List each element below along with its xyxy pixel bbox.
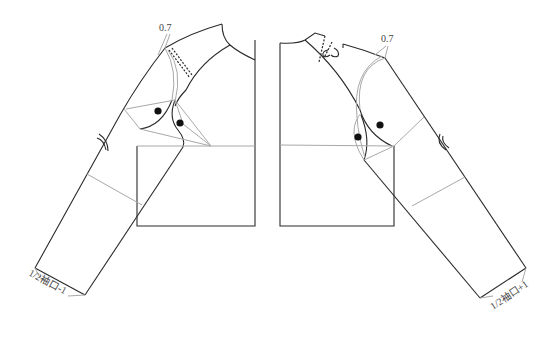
- right-sleeve-outer: [385, 58, 526, 268]
- right-0.7-leader-1: [375, 46, 386, 55]
- right-neck-curl-mark-1: [323, 50, 330, 57]
- right-elbow-line: [412, 177, 465, 206]
- left-pattern-piece: 0.7 1/2袖口-1: [27, 22, 255, 296]
- right-body-outline: [280, 43, 394, 226]
- left-biceps-guide: [124, 109, 211, 146]
- right-pattern-piece: 0.7 1/2袖口+1: [280, 33, 530, 312]
- right-neckline: [280, 33, 325, 43]
- left-notch-dot-2: [176, 119, 183, 126]
- left-sleeve-top-edge: [165, 24, 222, 48]
- left-cuff-leader-2: [68, 295, 85, 296]
- left-cuff-label: 1/2袖口-1: [27, 266, 69, 296]
- right-sleeve-top-edge: [343, 44, 385, 58]
- right-0.7-leader-2: [385, 46, 388, 58]
- left-sleeve-cap-guide: [126, 100, 175, 109]
- right-top-label: 0.7: [381, 33, 394, 44]
- left-top-label: 0.7: [159, 22, 172, 33]
- left-underarm-curve-sleeve: [140, 100, 172, 129]
- right-notch-dot-2: [376, 121, 383, 128]
- right-neck-curl-mark-2: [331, 48, 339, 57]
- left-sleeve-outer: [35, 48, 165, 268]
- right-cuff-label: 1/2袖口+1: [487, 277, 530, 311]
- right-elbow-notch-mark: [439, 134, 449, 150]
- left-dart-dashed-2: [172, 48, 192, 75]
- right-notch-dot-1: [354, 133, 361, 140]
- right-chest-line: [280, 145, 394, 146]
- left-elbow-notch-mark: [97, 134, 108, 151]
- left-sleeve-inner: [85, 147, 183, 295]
- left-elbow-line: [87, 174, 142, 205]
- left-neckline: [222, 24, 255, 60]
- right-cap-arc-1: [359, 58, 385, 110]
- left-raglan-line: [175, 45, 230, 106]
- right-sleeve-inner: [364, 160, 480, 298]
- pattern-diagram: 0.7 1/2袖口-1: [0, 0, 556, 337]
- left-notch-dot-1: [154, 107, 161, 114]
- left-cap-arc-1: [165, 48, 174, 100]
